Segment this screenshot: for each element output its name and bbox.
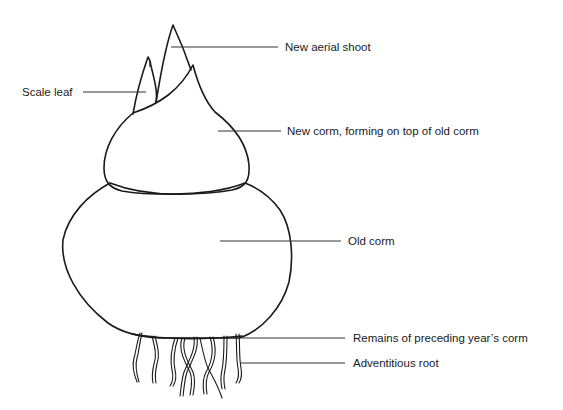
scale-leaf-outline xyxy=(133,57,150,114)
root xyxy=(236,334,238,383)
root xyxy=(239,334,241,383)
root xyxy=(136,333,142,382)
root xyxy=(203,337,212,394)
label-old-corm: Old corm xyxy=(348,235,395,247)
aerial-shoot-inner-edge xyxy=(150,62,157,102)
label-remains: Remains of preceding year’s corm xyxy=(353,332,528,344)
corm-diagram: New aerial shoot Scale leaf New corm, fo… xyxy=(0,0,563,410)
adventitious-roots xyxy=(133,333,241,398)
label-scale-leaf: Scale leaf xyxy=(22,86,73,98)
label-adventitious-root: Adventitious root xyxy=(353,357,439,369)
new-corm-outline xyxy=(104,65,249,194)
old-corm-outline xyxy=(63,183,292,338)
root xyxy=(133,333,140,382)
label-new-corm: New corm, forming on top of old corm xyxy=(287,125,479,137)
label-new-aerial-shoot: New aerial shoot xyxy=(285,41,371,53)
root xyxy=(173,338,178,386)
